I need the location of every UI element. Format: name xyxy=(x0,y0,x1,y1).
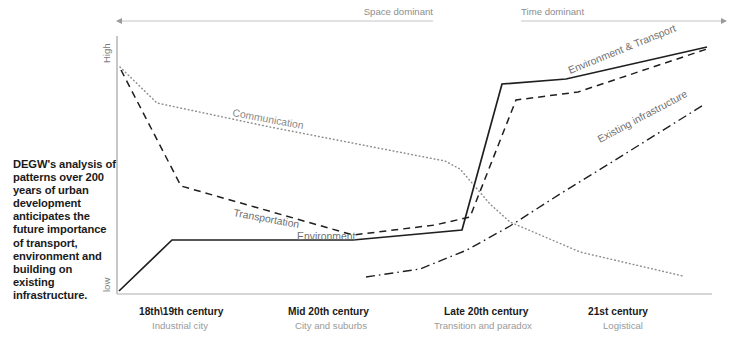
axis-group: High low xyxy=(101,36,712,294)
bracket-time-dominant-label: Time dominant xyxy=(521,6,584,17)
bracket-space-dominant-label: Space dominant xyxy=(364,6,434,17)
phase-label-0-subtitle: Industrial city xyxy=(152,320,208,331)
series-existing-infrastructure-line xyxy=(366,104,705,277)
series-environment: Environment Environment & Transport xyxy=(119,23,707,291)
series-transportation-line xyxy=(121,49,707,235)
series-communication-label: Communication xyxy=(232,107,305,131)
phase-label-3-subtitle: Logistical xyxy=(603,320,643,331)
series-existing-infrastructure: Existing infrastructure xyxy=(366,88,705,277)
series-environment-transport-label: Environment & Transport xyxy=(567,23,678,76)
phase-label-1-title: Mid 20th century xyxy=(288,306,369,317)
phase-label-1-subtitle: City and suburbs xyxy=(295,320,367,331)
diagram-canvas: Space dominant Time dominant High low Co… xyxy=(0,0,735,340)
y-axis-high-label: High xyxy=(101,43,112,63)
series-existing-infrastructure-label: Existing infrastructure xyxy=(596,88,690,145)
phase-label-3-title: 21st century xyxy=(588,306,648,317)
series-communication-line xyxy=(120,67,683,276)
y-axis-low-label: low xyxy=(101,278,112,292)
bracket-time-dominant: Time dominant xyxy=(521,6,722,21)
chart-page: DEGW's analysis of patterns over 200 yea… xyxy=(0,0,735,340)
phase-label-2-title: Late 20th century xyxy=(444,306,529,317)
series-transportation: Transportation xyxy=(121,49,707,235)
bracket-space-dominant: Space dominant xyxy=(122,6,433,21)
series-environment-line xyxy=(119,47,707,291)
series-environment-label: Environment xyxy=(297,231,355,242)
series-communication: Communication xyxy=(120,67,683,276)
phase-label-2-subtitle: Transition and paradox xyxy=(434,320,532,331)
x-axis-categories: 18th\19th century Industrial city Mid 20… xyxy=(139,306,648,331)
phase-label-0-title: 18th\19th century xyxy=(139,306,224,317)
